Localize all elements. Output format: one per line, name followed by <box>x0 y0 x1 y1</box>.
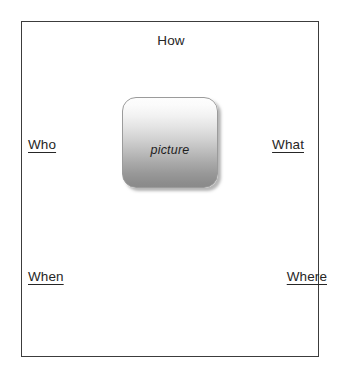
label-when: When <box>28 269 64 284</box>
picture-placeholder-label: picture <box>151 143 190 157</box>
label-where: Where <box>287 269 327 284</box>
label-who: Who <box>28 137 56 152</box>
label-what: What <box>272 137 304 152</box>
picture-placeholder-box: picture <box>122 97 218 188</box>
outer-frame-rectangle <box>21 21 319 357</box>
diagram-canvas: How Who What When Where picture <box>0 0 342 376</box>
label-how-text: How <box>157 33 184 48</box>
label-how: How <box>0 33 342 48</box>
